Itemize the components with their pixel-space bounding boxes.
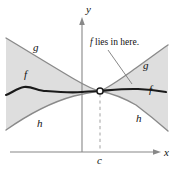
shaded-region-left xyxy=(6,38,100,130)
annotation-rest-text: lies in here. xyxy=(93,37,139,47)
y-axis-label: y xyxy=(86,4,91,15)
squeeze-theorem-figure: f lies in here. y x c g f h g f h xyxy=(0,0,175,176)
x-axis-label: x xyxy=(164,147,169,158)
curve-label-h-left: h xyxy=(37,118,43,129)
x-axis-arrowhead xyxy=(153,149,161,155)
curve-label-f-left: f xyxy=(24,69,27,80)
curve-label-h-right: h xyxy=(136,113,142,124)
curve-label-f-right: f xyxy=(149,84,152,95)
annotation-f-lies-in-here: f lies in here. xyxy=(90,38,139,48)
open-circle-limit-point xyxy=(97,88,103,94)
curve-label-g-left: g xyxy=(33,42,39,53)
y-axis-arrowhead xyxy=(79,17,85,25)
curve-label-g-right: g xyxy=(143,60,149,71)
x-tick-label-c: c xyxy=(97,155,102,166)
